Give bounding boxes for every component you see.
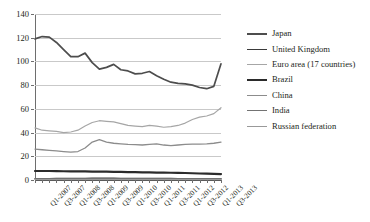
plot-area	[35, 14, 221, 180]
legend-label: United Kingdom	[272, 45, 330, 54]
legend-swatch	[247, 95, 267, 96]
legend-swatch	[247, 110, 267, 111]
y-axis-tick-mark	[31, 38, 34, 39]
y-axis-tick-label: 20	[3, 152, 29, 160]
y-axis-tick-label: 120	[3, 34, 29, 42]
legend-item: United Kingdom	[247, 41, 369, 56]
legend-label: Euro area (17 countries)	[272, 60, 355, 69]
series-line-euro-area-17-countries	[35, 108, 221, 133]
legend-label: Russian federation	[272, 122, 336, 131]
legend-swatch	[247, 126, 267, 127]
legend-item: Brazil	[247, 72, 369, 87]
y-axis-tick-mark	[31, 14, 34, 15]
series-line-brazil	[35, 171, 221, 174]
series-line-japan	[35, 37, 221, 89]
series-line-china	[35, 140, 221, 152]
legend-label: Brazil	[272, 75, 293, 84]
legend-swatch	[247, 64, 267, 65]
y-axis-tick-label: 140	[3, 10, 29, 18]
y-axis-tick-mark	[31, 156, 34, 157]
y-axis-tick-label: 40	[3, 129, 29, 137]
legend-item: Euro area (17 countries)	[247, 57, 369, 72]
legend-item: Japan	[247, 26, 369, 41]
y-axis-tick-mark	[31, 133, 34, 134]
legend-swatch	[247, 79, 267, 81]
series-lines	[35, 14, 221, 180]
legend-label: China	[272, 91, 293, 100]
y-axis-tick-mark	[31, 85, 34, 86]
chart-legend: JapanUnited KingdomEuro area (17 countri…	[247, 26, 369, 134]
legend-swatch	[247, 49, 267, 50]
legend-item: Russian federation	[247, 118, 369, 133]
y-axis-tick-label: 80	[3, 81, 29, 89]
legend-item: India	[247, 103, 369, 118]
chart-figure: 140120100806040200 Q1-2007Q3-2007Q1-2008…	[0, 0, 370, 222]
y-axis-tick-label: 100	[3, 57, 29, 65]
legend-swatch	[247, 33, 267, 35]
y-axis-tick-label: 60	[3, 105, 29, 113]
y-axis-tick-mark	[31, 61, 34, 62]
legend-item: China	[247, 88, 369, 103]
legend-label: Japan	[272, 29, 292, 38]
x-axis-labels: Q1-2007Q3-2007Q1-2008Q3-2008Q1-2009Q3-20…	[0, 182, 370, 222]
y-axis-tick-mark	[31, 109, 34, 110]
legend-label: India	[272, 106, 290, 115]
y-axis-tick-mark	[31, 180, 34, 181]
